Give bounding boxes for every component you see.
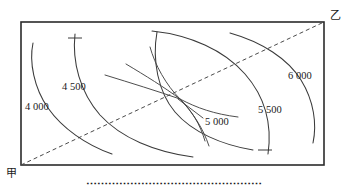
isoquant-curve-5500 xyxy=(152,31,269,154)
isoquant-curve-4000 xyxy=(32,43,112,154)
isoquant-curve-6000 xyxy=(230,33,315,143)
isoquant-label-6000: 6 000 xyxy=(288,70,312,81)
curve-end-ticks xyxy=(68,38,272,150)
isoquant-label-5000: 5 000 xyxy=(205,116,229,127)
figure-root: ⋯⋯⋯⋯⋯⋯⋯⋯⋯⋯⋯⋯⋯⋯⋯⋯⋯⋯⋯⋯⋯⋯⋯ 甲 乙 4 000 4 500 … xyxy=(0,0,347,189)
isoquant-label-4000: 4 000 xyxy=(25,101,49,112)
isoquant-curve-5000 xyxy=(155,32,253,150)
convergence-fan-curves xyxy=(105,47,238,146)
label-leader-line-5000 xyxy=(178,99,203,118)
isoquant-label-5500: 5 500 xyxy=(258,104,282,115)
isoquant-diagram xyxy=(0,0,347,189)
isoquant-label-4500: 4 500 xyxy=(62,81,86,92)
axis-label-yi: 乙 xyxy=(330,10,341,21)
figure-caption: ⋯⋯⋯⋯⋯⋯⋯⋯⋯⋯⋯⋯⋯⋯⋯⋯ xyxy=(0,176,347,189)
